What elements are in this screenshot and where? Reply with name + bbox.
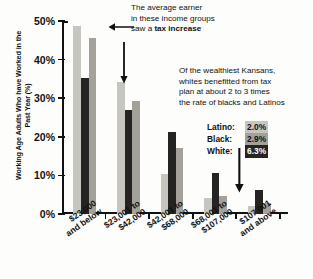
y-tick-label-20: 20% (34, 131, 55, 143)
annotation-line-1: The average earner (131, 3, 243, 14)
chart-container: Working Age Adults Who have Worked in th… (0, 0, 313, 279)
bar-white-2 (125, 110, 133, 214)
bar-latino-2 (117, 82, 125, 214)
annotation-line-3: saw a tax increase (131, 24, 243, 35)
legend-row-white: White:6.3% (207, 145, 268, 157)
annotation-right-line-1: Of the wealthiest Kansans, (179, 66, 309, 77)
y-tick-label-0: 0% (40, 208, 55, 220)
annotation-line-3-bold: tax increase (154, 24, 201, 33)
y-axis-title: Working Age Adults Who have Worked in th… (14, 30, 33, 180)
legend-value-white: 6.3% (245, 145, 268, 157)
legend-value-latino: 2.0% (245, 121, 268, 133)
x-tick-5 (279, 213, 281, 219)
legend-value-black: 2.9% (245, 133, 268, 145)
legend-row-latino: Latino:2.0% (207, 121, 268, 133)
bar-group-2 (117, 82, 140, 214)
y-tick-40 (58, 59, 65, 61)
annotation-line-2: in these income groups (131, 14, 243, 25)
annotation-right-line-3: plan at about 2 to 3 times (179, 87, 309, 98)
bar-latino-1 (73, 26, 81, 214)
legend-label-latino: Latino: (207, 121, 242, 133)
bar-group-1 (73, 26, 96, 214)
y-tick-label-50: 50% (34, 15, 55, 27)
y-tick-50 (58, 20, 65, 22)
y-axis-line (62, 21, 64, 214)
legend-row-black: Black:2.9% (207, 133, 268, 145)
bar-black-1 (89, 38, 97, 214)
legend: Latino:2.0%Black:2.9%White:6.3% (207, 121, 268, 158)
y-tick-10 (58, 175, 65, 177)
annotation-right-line-4: the rate of blacks and Latinos (179, 98, 309, 109)
annotation-line-3-plain: saw a (131, 24, 154, 33)
arrow-left-icon (108, 22, 134, 32)
y-tick-label-30: 30% (34, 92, 55, 104)
annotation-tax-increase: The average earner in these income group… (131, 3, 243, 35)
bar-white-1 (81, 78, 89, 214)
y-tick-label-40: 40% (34, 54, 55, 66)
y-tick-30 (58, 97, 65, 99)
y-tick-0 (58, 213, 65, 215)
annotation-right-line-2: whites benefitted from tax (179, 77, 309, 88)
legend-label-black: Black: (207, 133, 242, 145)
arrow-down-icon-middle (119, 42, 129, 84)
annotation-wealthiest-kansans: Of the wealthiest Kansans, whites benefi… (179, 66, 309, 108)
y-tick-20 (58, 136, 65, 138)
plot-area: 0%10%20%30%40%50% (62, 21, 280, 214)
bar-black-2 (132, 101, 140, 214)
y-tick-label-10: 10% (34, 169, 55, 181)
legend-label-white: White: (207, 145, 242, 157)
